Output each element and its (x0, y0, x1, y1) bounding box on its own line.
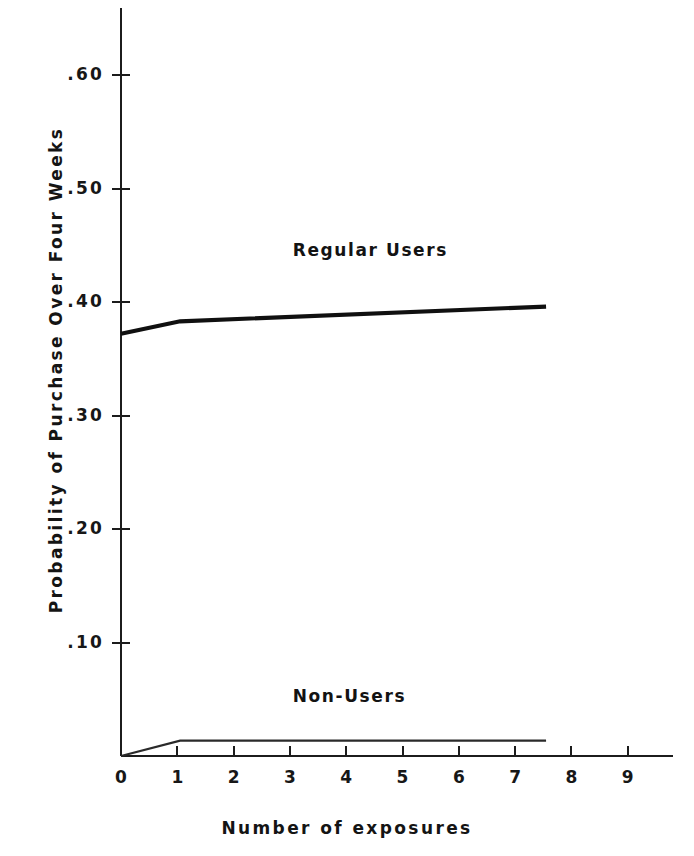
y-tick-label: .30 (16, 405, 104, 425)
x-tick-label: 9 (608, 767, 648, 787)
y-tick-label: .40 (16, 291, 104, 311)
series-label-non-users: Non-Users (293, 686, 406, 706)
x-axis-label: Number of exposures (0, 818, 694, 838)
series-line-regular-users (121, 307, 546, 334)
x-tick-marks (177, 746, 627, 756)
x-tick-label: 0 (101, 767, 141, 787)
x-tick-label: 5 (383, 767, 423, 787)
series-line-non-users (121, 741, 546, 756)
x-tick-label: 1 (157, 767, 197, 787)
x-tick-label: 2 (214, 767, 254, 787)
x-tick-label: 7 (495, 767, 535, 787)
y-tick-label: .20 (16, 518, 104, 538)
y-tick-label: .10 (16, 632, 104, 652)
y-tick-label: .60 (16, 64, 104, 84)
y-axis-label: Probability of Purchase Over Four Weeks (46, 90, 66, 650)
x-tick-label: 8 (551, 767, 591, 787)
x-tick-label: 6 (439, 767, 479, 787)
x-tick-label: 3 (270, 767, 310, 787)
x-tick-label: 4 (326, 767, 366, 787)
series-label-regular-users: Regular Users (293, 240, 448, 260)
axes-group (121, 8, 673, 756)
chart-figure: Probability of Purchase Over Four Weeks … (0, 0, 694, 856)
plot-area (0, 0, 694, 856)
y-tick-label: .50 (16, 178, 104, 198)
